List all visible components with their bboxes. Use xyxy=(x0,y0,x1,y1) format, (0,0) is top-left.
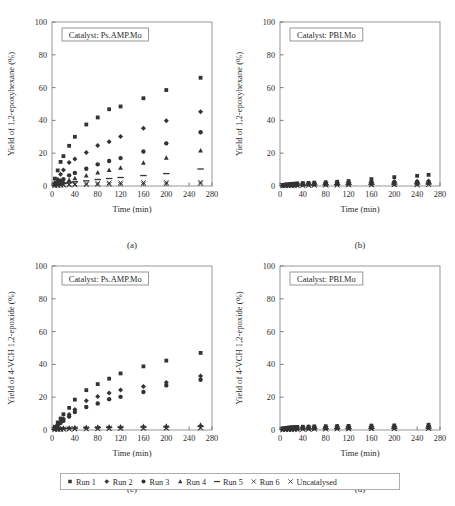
marker-dash xyxy=(95,179,101,180)
x-axis-title: Time (min) xyxy=(112,448,151,458)
marker-circle xyxy=(141,149,145,153)
marker-triangle xyxy=(84,173,89,178)
marker-square xyxy=(415,174,419,178)
x-tick-label: 80 xyxy=(322,434,330,443)
series-run-3 xyxy=(53,378,203,431)
legend-item-run-2[interactable]: Run 2 xyxy=(104,478,132,487)
x-axis-title: Time (min) xyxy=(340,448,379,458)
marker-square xyxy=(62,154,66,158)
marker-triangle xyxy=(178,479,182,483)
x-tick-label: 160 xyxy=(365,190,377,199)
marker-diamond xyxy=(84,150,89,155)
marker-diamond xyxy=(107,391,112,396)
y-axis-title: Yield of 4-VCH 1,2-epoxide (%) xyxy=(234,291,244,405)
x-tick-label: 0 xyxy=(50,190,54,199)
legend-label: Run 3 xyxy=(150,478,170,487)
marker-square xyxy=(68,480,71,483)
x-tick-label: 120 xyxy=(114,190,126,199)
y-axis-title: Yield of 1,2-epoxyhexane (%) xyxy=(234,52,244,156)
plot-svg: 04080120160200240280020406080100Time (mi… xyxy=(0,8,227,252)
marker-dash xyxy=(163,173,169,174)
x-tick-label: 120 xyxy=(342,434,354,443)
marker-triangle xyxy=(118,165,123,170)
legend-item-run-3[interactable]: Run 3 xyxy=(141,478,169,487)
marker-square xyxy=(199,351,203,355)
x-tick-label: 280 xyxy=(206,190,218,199)
marker-square xyxy=(199,76,203,80)
marker-square xyxy=(67,406,71,410)
marker-triangle xyxy=(107,168,112,173)
legend-item-run-1[interactable]: Run 1 xyxy=(68,478,96,487)
marker-circle xyxy=(73,171,77,175)
legend-item-uncatalysed[interactable]: Uncatalysed xyxy=(288,478,337,487)
plot-frame xyxy=(280,22,440,186)
marker-circle xyxy=(118,156,122,160)
y-axis-title: Yield of 4-VCH 1,2-epoxide (%) xyxy=(6,291,16,405)
legend-label: Run 4 xyxy=(186,478,206,487)
marker-diamond xyxy=(198,109,203,114)
marker-circle xyxy=(67,173,71,177)
catalyst-label: Catalyst: Ps.AMP.Mo xyxy=(69,275,142,284)
panel-a: 04080120160200240280020406080100Time (mi… xyxy=(0,8,227,252)
marker-triangle xyxy=(67,178,72,183)
legend-item-run-4[interactable]: Run 4 xyxy=(178,478,206,487)
legend-label: Run 5 xyxy=(223,478,243,487)
plot-svg: 04080120160200240280020406080100Time (mi… xyxy=(228,252,455,496)
y-tick-label: 0 xyxy=(271,182,275,191)
marker-square xyxy=(119,105,123,109)
series-run-4 xyxy=(52,148,202,187)
panel-b: 04080120160200240280020406080100Time (mi… xyxy=(228,8,455,252)
marker-circle xyxy=(84,167,88,171)
marker-diamond xyxy=(118,387,123,392)
x-tick-label: 240 xyxy=(411,190,423,199)
catalyst-label: Catalyst: Ps.AMP.Mo xyxy=(69,31,142,40)
marker-diamond xyxy=(84,398,89,403)
marker-circle xyxy=(198,130,202,134)
marker-square xyxy=(164,359,168,363)
marker-diamond xyxy=(118,134,123,139)
marker-circle xyxy=(107,397,111,401)
panel-letter: (b) xyxy=(355,240,366,250)
y-tick-label: 60 xyxy=(39,84,47,93)
x-tick-label: 0 xyxy=(50,434,54,443)
legend-item-run-5[interactable]: Run 5 xyxy=(214,478,243,487)
marker-diamond xyxy=(72,156,77,161)
x-tick-label: 280 xyxy=(434,434,446,443)
marker-square xyxy=(56,169,60,173)
y-tick-label: 0 xyxy=(43,426,47,435)
marker-square xyxy=(142,364,146,368)
marker-dash xyxy=(197,168,203,169)
x-tick-label: 80 xyxy=(94,434,102,443)
x-tick-label: 40 xyxy=(71,190,79,199)
legend-label: Uncatalysed xyxy=(297,478,337,487)
legend-item-run-6[interactable]: Run 6 xyxy=(252,478,280,487)
y-tick-label: 20 xyxy=(39,149,47,158)
x-tick-label: 200 xyxy=(388,434,400,443)
y-tick-label: 40 xyxy=(267,360,275,369)
marker-square xyxy=(96,382,100,386)
marker-diamond xyxy=(95,394,100,399)
marker-dash xyxy=(106,178,112,179)
figure-legend: Run 1Run 2Run 3Run 4Run 5Run 6Uncatalyse… xyxy=(60,473,400,490)
marker-square xyxy=(62,412,66,416)
y-tick-label: 40 xyxy=(39,116,47,125)
marker-diamond xyxy=(107,139,112,144)
marker-square xyxy=(107,377,111,381)
series-run-1 xyxy=(53,351,203,429)
marker-triangle xyxy=(72,176,77,181)
marker-circle xyxy=(141,479,145,483)
marker-diamond xyxy=(141,384,146,389)
plot-svg: 04080120160200240280020406080100Time (mi… xyxy=(0,252,227,496)
marker-circle xyxy=(84,405,88,409)
plot-frame xyxy=(52,22,212,186)
x-tick-label: 200 xyxy=(388,190,400,199)
marker-diamond xyxy=(141,126,146,131)
marker-diamond xyxy=(104,479,109,484)
panel-letter: (a) xyxy=(127,240,137,250)
marker-circle xyxy=(164,141,168,145)
marker-diamond xyxy=(95,143,100,148)
y-tick-label: 100 xyxy=(35,18,47,27)
y-tick-label: 80 xyxy=(39,51,47,60)
y-tick-label: 20 xyxy=(267,393,275,402)
marker-diamond xyxy=(164,118,169,123)
